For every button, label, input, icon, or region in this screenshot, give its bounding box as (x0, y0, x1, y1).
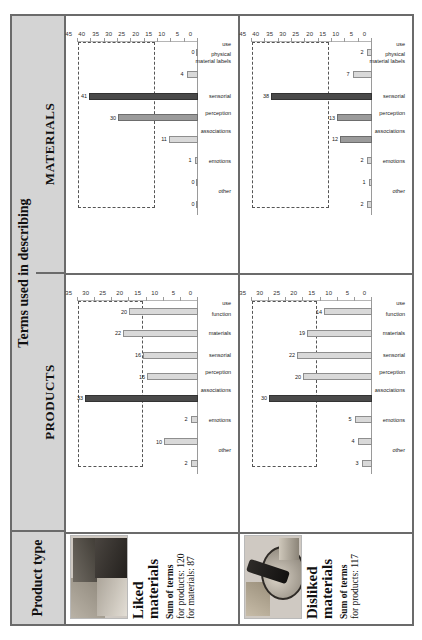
category-slot: sensorial (372, 107, 412, 129)
bar-slot: 22 (78, 323, 198, 345)
axis-tick-label: 40 (253, 31, 260, 37)
bar-slot: 5 (252, 409, 372, 431)
bar-value-label: 0 (191, 201, 194, 207)
liked-materials-photo (70, 535, 128, 619)
bar-slot: 4 (78, 64, 198, 86)
sum-products: for products: 120 (176, 539, 187, 619)
bar-series: 21212133872 (252, 42, 372, 215)
bar-value-label: 22 (289, 352, 295, 358)
bar-value-label: 2 (360, 158, 363, 164)
bar-slot: 33 (78, 388, 198, 410)
bar-value-label: 15 (139, 374, 145, 380)
bar (340, 136, 372, 143)
bar-value-label: 4 (181, 71, 184, 77)
bar (143, 352, 198, 359)
category-slot: use (372, 42, 412, 64)
bar-value-label: 3 (355, 460, 358, 466)
category-slot: perception (198, 129, 238, 151)
header-product-type: Product type (12, 530, 66, 624)
bar (358, 438, 372, 445)
category-slot: sensorial (198, 366, 238, 388)
axis-tick-label: 30 (105, 31, 112, 37)
sum-of-terms-heading: Sum of terms (165, 539, 176, 619)
bar (362, 460, 372, 467)
bar (89, 93, 198, 100)
bar (147, 373, 198, 380)
bar (85, 395, 198, 402)
bar-slot: 16 (78, 344, 198, 366)
bar (118, 114, 198, 121)
category-slot: associations (198, 409, 238, 431)
header-sub-products: PRODUCTS (36, 272, 64, 530)
category-slot: other (372, 193, 412, 215)
bar-chart: 0510152025303521023315162220otheremotion… (66, 275, 238, 532)
bar-value-label: 22 (115, 330, 121, 336)
row-title: Disliked materials (305, 539, 335, 619)
axis-tick-label: 15 (145, 31, 152, 37)
bar-slot: 20 (252, 366, 372, 388)
bar-slot: 3 (252, 452, 372, 474)
bar-slot: 10 (78, 431, 198, 453)
axis-tick-label: 20 (132, 31, 139, 37)
axis-tick-label: 45 (65, 31, 72, 37)
header-terms-title: Terms used in describing (12, 16, 36, 530)
axis-tick-label: 0 (363, 290, 366, 296)
bar-value-label: 2 (360, 201, 363, 207)
category-slot: material labels (372, 85, 412, 107)
header-sub-row: PRODUCTS MATERIALS (36, 16, 64, 530)
bar (129, 308, 198, 315)
bar-slot: 1 (252, 172, 372, 194)
bar (303, 373, 372, 380)
bar-value-label: 0 (191, 50, 194, 56)
table-row: Liked materials Sum of terms for product… (66, 16, 240, 624)
plot-area: 0510152025303521023315162220 (78, 301, 198, 474)
bar-value-label: 12 (332, 136, 338, 142)
bar-slot: 4 (252, 431, 372, 453)
bar-slot: 20 (78, 301, 198, 323)
category-slot: sensorial (198, 107, 238, 129)
plot-area: 05101520253035404500111304140 (78, 42, 198, 215)
category-slot: perception (372, 388, 412, 410)
category-slot: other (372, 452, 412, 474)
bar-slot: 1 (78, 150, 198, 172)
axis-tick-label: 25 (100, 290, 107, 296)
category-slot: function (372, 323, 412, 345)
row-label-liked: Liked materials Sum of terms for product… (66, 532, 238, 624)
axis-tick-label: 10 (159, 31, 166, 37)
header-sub-materials: MATERIALS (36, 16, 64, 272)
category-label: use (222, 41, 231, 47)
row-title: Liked materials (131, 539, 161, 619)
axis-tick-label: 20 (117, 290, 124, 296)
bar-value-label: 5 (348, 417, 351, 423)
axis-tick-label: 15 (134, 290, 141, 296)
bar-slot: 12 (252, 129, 372, 151)
category-slot: use (198, 42, 238, 64)
category-slot: materials (198, 344, 238, 366)
category-slot: function (198, 323, 238, 345)
category-slot: emotions (372, 172, 412, 194)
bar-value-label: 20 (295, 374, 301, 380)
bar (271, 93, 372, 100)
bar-slot: 2 (252, 193, 372, 215)
axis-tick-label: 35 (65, 290, 72, 296)
category-slot: other (198, 193, 238, 215)
axis-tick-label: 30 (82, 290, 89, 296)
table-row: Disliked materials Sum of terms for prod… (240, 16, 412, 624)
category-axis: otheremotionsassociationsperceptionsenso… (372, 301, 412, 474)
category-slot: emotions (198, 172, 238, 194)
axis-tick-label: 5 (172, 290, 175, 296)
category-label: use (222, 300, 231, 306)
chart-liked-products: 0510152025303521023315162220otheremotion… (66, 273, 238, 532)
axis-tick-label: 10 (333, 31, 340, 37)
bar-value-label: 19 (299, 330, 305, 336)
axis-tick-label: 10 (151, 290, 158, 296)
bar-slot: 0 (78, 193, 198, 215)
disliked-materials-photo (244, 535, 302, 619)
bar-slot: 38 (252, 85, 372, 107)
bar (191, 416, 198, 423)
bar (355, 416, 372, 423)
category-slot: use (372, 301, 412, 323)
bar-slot: 22 (252, 344, 372, 366)
category-axis: otheremotionsassociationsperceptionsenso… (198, 301, 238, 474)
bar-slot: 2 (252, 150, 372, 172)
